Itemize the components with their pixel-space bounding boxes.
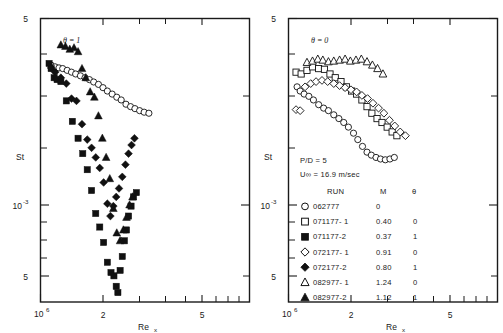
datapoint xyxy=(355,136,361,142)
datapoint xyxy=(106,175,114,182)
legend-rows: 0627770071177- 10.400071177-20.371072177… xyxy=(301,202,418,302)
panel-right-y-mid-label: 10 -3 xyxy=(261,198,278,211)
datapoint xyxy=(92,154,100,162)
panel-left-y-top-label: 5 xyxy=(23,14,28,24)
legend-m-value: 0 xyxy=(376,202,380,211)
datapoint xyxy=(78,64,86,71)
series-062777 xyxy=(48,62,152,116)
svg-text:10: 10 xyxy=(34,309,44,319)
legend-run-value: 082977- 1 xyxy=(313,278,349,287)
datapoint xyxy=(115,289,121,295)
legend-theta-value: 0 xyxy=(413,248,417,257)
legend-row: 072177- 10.910 xyxy=(301,248,418,257)
panel-left-x-tick-5: 5 xyxy=(200,310,205,320)
panel-right-x-tick-5: 5 xyxy=(448,310,453,320)
legend-row: 082977-21.121 xyxy=(301,293,418,302)
legend-row: 071177-20.371 xyxy=(302,232,418,241)
legend-run-value: 062777 xyxy=(313,202,340,211)
datapoint xyxy=(99,134,107,141)
legend-m-value: 0.91 xyxy=(376,248,392,257)
datapoint xyxy=(83,136,91,144)
panel-left-x-min-label: 10 6 xyxy=(34,306,50,319)
panel-right-y-axis-title: St xyxy=(264,152,273,162)
datapoint xyxy=(345,124,351,130)
legend-run-value: 072177- 1 xyxy=(313,248,349,257)
datapoint xyxy=(133,190,139,196)
legend-theta-value: 1 xyxy=(413,263,417,272)
panel-right-x-tick-2: 2 xyxy=(349,310,354,320)
datapoint xyxy=(391,154,397,160)
datapoint xyxy=(107,212,115,220)
panel-left: 5 10 -3 5 St 10 6 2 5 Re x θ = 1 xyxy=(13,14,250,333)
datapoint xyxy=(325,108,331,114)
datapoint xyxy=(84,167,90,173)
datapoint xyxy=(100,179,108,187)
panel-right-y-ticks xyxy=(289,19,298,277)
datapoint xyxy=(364,104,370,110)
legend-velocity: U∞ = 16.9 m/sec xyxy=(300,170,360,179)
datapoint xyxy=(113,283,119,289)
legend-m-value: 0.40 xyxy=(376,217,392,226)
panel-left-datapoints xyxy=(46,41,152,296)
legend-header-theta: θ xyxy=(412,187,417,196)
legend-run-value: 072177-2 xyxy=(313,263,347,272)
svg-text:10: 10 xyxy=(261,201,271,211)
datapoint xyxy=(359,143,365,149)
legend-theta-value: 0 xyxy=(413,217,417,226)
panel-right: 5 10 -3 5 St 10 6 2 5 Re x θ = 0 P/D = 5 xyxy=(261,14,498,333)
legend-row: 082977- 11.240 xyxy=(301,278,418,287)
datapoint xyxy=(146,110,152,116)
datapoint xyxy=(310,97,316,103)
datapoint xyxy=(357,55,365,62)
legend-row: 0627770 xyxy=(302,202,381,211)
legend: P/D = 5 U∞ = 16.9 m/sec RUN M θ 06277700… xyxy=(300,156,417,302)
legend-symbol-diamond-open xyxy=(301,248,309,256)
datapoint xyxy=(96,164,104,172)
datapoint xyxy=(117,267,123,273)
legend-symbol-square-filled xyxy=(302,233,309,240)
svg-text:Re: Re xyxy=(138,322,149,332)
datapoint xyxy=(111,273,117,279)
datapoint xyxy=(298,71,304,77)
datapoint xyxy=(316,65,322,71)
svg-text:6: 6 xyxy=(294,306,298,313)
panel-left-frame xyxy=(41,19,250,303)
datapoint xyxy=(115,185,123,193)
legend-m-value: 0.37 xyxy=(376,232,392,241)
datapoint xyxy=(88,144,96,152)
legend-m-value: 0.80 xyxy=(376,263,392,272)
legend-theta-value: 1 xyxy=(413,232,417,241)
svg-text:10: 10 xyxy=(282,309,292,319)
datapoint xyxy=(122,161,130,169)
datapoint xyxy=(375,104,383,112)
panel-left-y-ticks xyxy=(41,19,50,277)
legend-run-value: 082977-2 xyxy=(313,293,347,302)
svg-text:x: x xyxy=(402,326,406,333)
svg-text:Re: Re xyxy=(386,322,397,332)
panel-left-y-low-label: 5 xyxy=(23,272,28,282)
series-072177-2 xyxy=(47,64,138,220)
datapoint xyxy=(93,210,99,216)
datapoint xyxy=(131,134,139,142)
datapoint xyxy=(75,135,81,141)
legend-symbol-triangle-open xyxy=(301,278,309,286)
legend-header-run: RUN xyxy=(327,187,344,196)
legend-row: 072177-20.801 xyxy=(301,263,418,272)
datapoint xyxy=(118,173,126,181)
figure-container: 5 10 -3 5 St 10 6 2 5 Re x θ = 1 xyxy=(0,0,503,333)
datapoint xyxy=(97,224,103,230)
datapoint xyxy=(125,150,133,158)
legend-theta-value: 0 xyxy=(413,278,417,287)
legend-m-value: 1.12 xyxy=(376,293,392,302)
legend-header-m: M xyxy=(380,187,387,196)
panel-left-x-axis-title: Re x xyxy=(138,322,158,333)
datapoint xyxy=(101,239,107,245)
panel-left-x-ticks xyxy=(41,19,240,303)
legend-pd-ratio: P/D = 5 xyxy=(300,156,327,165)
datapoint xyxy=(95,112,103,119)
datapoint xyxy=(113,229,121,236)
datapoint xyxy=(104,259,110,265)
panel-right-x-axis-title: Re x xyxy=(386,322,406,333)
legend-symbol-circle-open xyxy=(302,203,309,210)
datapoint xyxy=(102,153,110,160)
